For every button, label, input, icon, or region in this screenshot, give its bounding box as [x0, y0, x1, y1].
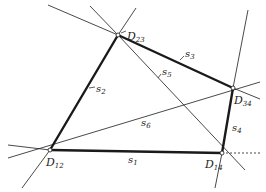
side-label-s1: s1: [128, 154, 138, 167]
vertex-markers: [48, 33, 235, 155]
vertex-d12-marker: [48, 148, 52, 152]
side-label-s4: s4: [232, 122, 242, 135]
vertex-d23-marker: [116, 33, 120, 37]
leader-d23: [121, 31, 126, 33]
vertex-label-d23: D23: [126, 30, 145, 44]
extension-line: [48, 5, 118, 35]
leader-s3: [180, 56, 184, 60]
side-s1: [50, 150, 222, 153]
diagonal-label-s5: s5: [162, 66, 172, 79]
leader-s5: [158, 74, 161, 78]
vertex-d34-marker: [231, 86, 235, 90]
diagonal-s5: [118, 35, 245, 170]
vertex-label-d34: D34: [233, 94, 252, 108]
vertex-label-d14: D14: [204, 158, 223, 172]
side-label-s3: s3: [185, 48, 195, 61]
leader-s2: [89, 87, 95, 88]
quadrilateral-diagram: D23 D34 D12 D14 s2 s3 s5 s6 s1 s4: [0, 0, 266, 192]
vertex-label-d12: D12: [45, 156, 64, 170]
side-s2: [50, 35, 118, 150]
quadrilateral-sides: [50, 35, 233, 153]
extension-line: [90, 6, 118, 35]
extension-line: [233, 10, 248, 88]
side-s4: [222, 88, 233, 153]
diagonal-label-s6: s6: [141, 117, 151, 130]
side-label-s2: s2: [96, 83, 106, 96]
vertex-d14-marker: [220, 151, 224, 155]
